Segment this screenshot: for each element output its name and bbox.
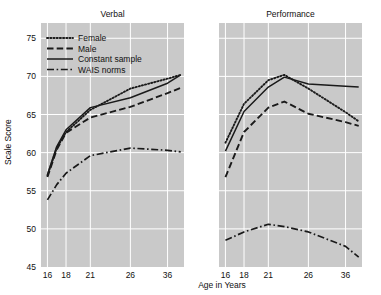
x-tick-label: 16 bbox=[43, 270, 53, 280]
x-axis-label: Age in Years bbox=[198, 280, 246, 290]
panel-performance: Performance1618212636 bbox=[219, 9, 362, 280]
y-tick-label: 45 bbox=[27, 262, 37, 272]
y-tick-label: 60 bbox=[27, 148, 37, 158]
x-tick-label: 18 bbox=[239, 270, 249, 280]
x-tick-label: 26 bbox=[126, 270, 136, 280]
legend-label-female: Female bbox=[78, 33, 107, 43]
scale-score-by-age-figure: Verbal161821263645505560657075Performanc… bbox=[0, 0, 381, 295]
x-tick-label: 26 bbox=[304, 270, 314, 280]
y-tick-label: 75 bbox=[27, 33, 37, 43]
panel-title-performance: Performance bbox=[266, 9, 315, 19]
x-tick-label: 21 bbox=[86, 270, 96, 280]
y-axis-label: Scale Score bbox=[3, 119, 13, 165]
x-tick-label: 36 bbox=[163, 270, 173, 280]
legend-label-constant-sample: Constant sample bbox=[78, 54, 142, 64]
y-tick-label: 70 bbox=[27, 71, 37, 81]
x-tick-label: 36 bbox=[341, 270, 351, 280]
legend-label-male: Male bbox=[78, 44, 97, 54]
x-tick-label: 18 bbox=[61, 270, 71, 280]
y-tick-label: 50 bbox=[27, 224, 37, 234]
panel-plot-area bbox=[219, 23, 362, 267]
panel-verbal: Verbal161821263645505560657075 bbox=[27, 9, 184, 280]
y-tick-label: 55 bbox=[27, 186, 37, 196]
x-tick-label: 16 bbox=[221, 270, 231, 280]
x-tick-label: 21 bbox=[264, 270, 274, 280]
legend-label-wais-norms: WAIS norms bbox=[78, 65, 125, 75]
y-tick-label: 65 bbox=[27, 110, 37, 120]
panel-title-verbal: Verbal bbox=[100, 9, 124, 19]
